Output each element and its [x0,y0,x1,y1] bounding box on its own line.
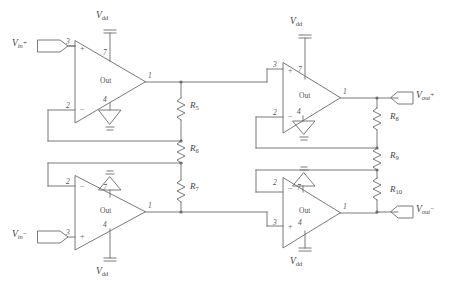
resistor-label-R8: R8 [390,111,399,122]
junction-dot-r5-r6 [179,139,182,142]
pin-label-opamp4-plus: 3 [273,218,277,227]
port-label-vin-plus: Vin+ [12,38,27,49]
pin-label-opamp2-plus: 3 [273,60,277,69]
pin-label-opamp2-vdd: 7 [298,65,302,74]
resistor-label-R7: R7 [190,181,199,192]
resistor-R6-symbol [177,141,185,163]
pin-label-opamp4-minus: 2 [273,178,277,187]
resistor-label-R9: R9 [390,150,399,161]
schematic-canvas: Vin+ Vin− Vout+ Vout− Vdd Vdd Vdd Vdd R5… [0,0,454,291]
resistor-R5-symbol [177,98,185,120]
supply-label-vdd-bottom-right: Vdd [290,256,302,267]
pin-label-opamp3-gnd: 7 [103,183,107,192]
pin-label-opamp4-out: 1 [343,202,347,211]
ground-triangle-opamp2 [293,121,315,134]
port-label-vout-plus: Vout+ [416,90,434,101]
opamp3-minus-sign: − [80,182,85,191]
opamp1-out-text: Out [100,76,111,85]
pin-label-opamp1-plus: 3 [66,37,70,46]
pin-label-opamp1-vdd: 7 [103,48,107,57]
ground-triangle-opamp1 [99,110,121,124]
opamp4-minus-sign: − [288,184,293,193]
pin-label-opamp3-vdd: 4 [103,220,107,229]
opamp2-minus-sign: − [288,112,293,121]
opamp1-plus-sign: + [80,44,85,53]
junction-dot-top-center [179,80,182,83]
opamp2-out-text: Out [299,91,310,100]
pin-label-opamp4-gnd: 7 [297,183,301,192]
pin-label-opamp2-gnd: 4 [297,107,301,116]
opamp2-plus-sign: + [288,66,293,75]
supply-label-vdd-bottom-left: Vdd [96,266,108,277]
junction-dot-bottom-center [179,210,182,213]
port-label-vin-minus: Vin− [12,229,27,240]
pin-label-opamp2-out: 1 [343,87,347,96]
pin-label-opamp3-plus: 3 [66,228,70,237]
pin-label-opamp3-out: 1 [148,201,152,210]
resistor-R10-symbol [373,178,381,200]
supply-label-vdd-top-left: Vdd [96,10,108,21]
pin-label-opamp1-gnd: 4 [103,95,107,104]
junction-dot-r8-r9 [375,146,378,149]
junction-dot-voutp [375,96,378,99]
opamp3-out-text: Out [100,206,111,215]
supply-label-vdd-top-right: Vdd [290,16,302,27]
resistor-label-R5: R5 [190,100,199,111]
opamp1-minus-sign: − [80,105,85,114]
port-label-vout-minus: Vout− [416,204,434,215]
pin-label-opamp4-vdd: 4 [298,218,302,227]
pin-label-opamp3-minus: 2 [66,177,70,186]
resistor-R7-symbol [177,180,185,202]
resistor-label-R6: R6 [190,143,199,154]
pin-label-opamp2-minus: 2 [273,108,277,117]
resistor-R9-symbol [373,148,381,170]
pin-label-opamp1-minus: 2 [66,101,70,110]
resistor-R8-symbol [373,108,381,130]
opamp3-plus-sign: + [80,232,85,241]
resistor-label-R10: R10 [390,184,402,195]
pin-label-opamp1-out: 1 [148,71,152,80]
opamp4-out-text: Out [299,206,310,215]
opamp4-plus-sign: + [288,222,293,231]
